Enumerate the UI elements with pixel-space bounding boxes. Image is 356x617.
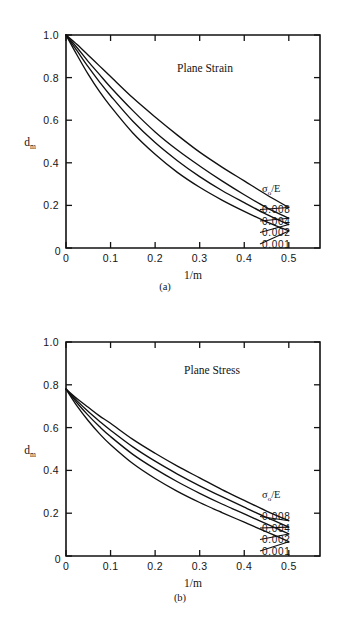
chart-panel-a: 00.10.20.30.40.500.20.40.60.81.0Plane St… bbox=[0, 0, 356, 300]
x-tick-label: 0.3 bbox=[192, 252, 208, 264]
series-label: 0.001 bbox=[262, 546, 291, 557]
x-axis-title: 1/m bbox=[184, 269, 202, 281]
x-axis-title: 1/m bbox=[184, 577, 202, 589]
y-tick-label: 0.6 bbox=[43, 422, 59, 434]
data-curve bbox=[66, 35, 289, 208]
figure-container: 00.10.20.30.40.500.20.40.60.81.0Plane St… bbox=[0, 0, 356, 617]
x-tick-label: 0.1 bbox=[103, 560, 119, 572]
panel-title: Plane Strain bbox=[177, 62, 233, 74]
x-tick-label: 0 bbox=[63, 252, 69, 264]
plot-area-b: 00.10.20.30.40.500.20.40.60.81.0Plane St… bbox=[0, 308, 356, 617]
chart-panel-b: 00.10.20.30.40.500.20.40.60.81.0Plane St… bbox=[0, 308, 356, 617]
panel-title: Plane Stress bbox=[184, 364, 240, 376]
x-tick-label: 0.2 bbox=[147, 560, 163, 572]
x-tick-label: 0.4 bbox=[236, 252, 252, 264]
y-axis-title: dm bbox=[24, 444, 36, 459]
legend-header: σo/E bbox=[262, 489, 281, 503]
x-tick-label: 0.2 bbox=[147, 252, 163, 264]
series-label: 0.002 bbox=[262, 534, 291, 545]
y-tick-label: 1.0 bbox=[43, 29, 59, 41]
x-tick-label: 0.5 bbox=[281, 560, 297, 572]
x-tick-label: 0.3 bbox=[192, 560, 208, 572]
x-tick-label: 0 bbox=[63, 560, 69, 572]
y-tick-label: 0 bbox=[55, 245, 61, 257]
y-tick-label: 0.8 bbox=[43, 72, 59, 84]
series-label: 0.001 bbox=[262, 239, 291, 250]
y-tick-label: 0.4 bbox=[43, 157, 59, 169]
x-tick-label: 0.5 bbox=[281, 252, 297, 264]
x-tick-label: 0.1 bbox=[103, 252, 119, 264]
y-tick-label: 0 bbox=[55, 553, 61, 565]
panel-caption: (a) bbox=[159, 281, 171, 293]
y-axis-title: dm bbox=[24, 136, 36, 151]
y-tick-label: 0.6 bbox=[43, 114, 59, 126]
y-tick-label: 0.4 bbox=[43, 464, 59, 476]
data-curve bbox=[66, 389, 289, 521]
y-tick-label: 1.0 bbox=[43, 336, 59, 348]
panel-caption: (b) bbox=[174, 592, 187, 604]
y-tick-label: 0.2 bbox=[43, 199, 59, 211]
x-tick-label: 0.4 bbox=[236, 560, 252, 572]
y-tick-label: 0.8 bbox=[43, 379, 59, 391]
plot-area-a: 00.10.20.30.40.500.20.40.60.81.0Plane St… bbox=[0, 0, 356, 300]
y-tick-label: 0.2 bbox=[43, 507, 59, 519]
